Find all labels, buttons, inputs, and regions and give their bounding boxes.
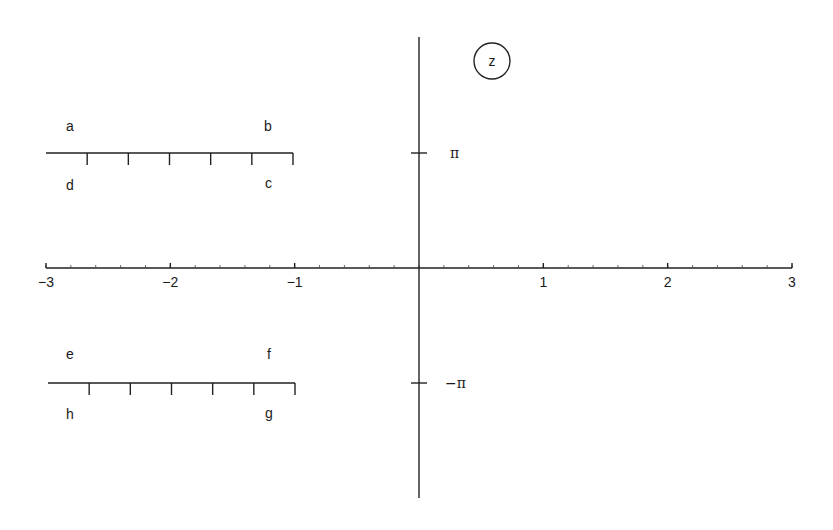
corner-label-d: d (66, 177, 74, 193)
corner-label-e: e (66, 346, 74, 362)
corner-label-c: c (265, 175, 272, 191)
corner-label-b: b (264, 118, 272, 134)
x-tick-label: 2 (664, 274, 672, 290)
complex-plane-diagram: −3−2−1123 π −π z a b d c e f h g (0, 0, 833, 530)
neg-pi-label: −π (445, 375, 466, 391)
real-axis-major-ticks: −3−2−1123 (38, 263, 796, 290)
corner-label-a: a (66, 118, 74, 134)
pi-label: π (450, 145, 459, 161)
diagram-svg: −3−2−1123 π −π z a b d c e f h g (0, 0, 833, 530)
x-tick-label: 1 (539, 274, 547, 290)
corner-label-f: f (267, 346, 271, 362)
x-tick-label: −3 (38, 274, 54, 290)
lower-segment: e f h g (48, 346, 295, 422)
corner-label-h: h (66, 406, 74, 422)
x-tick-label: −2 (162, 274, 178, 290)
corner-label-g: g (265, 405, 273, 421)
x-tick-label: 3 (788, 274, 796, 290)
upper-segment: a b d c (46, 118, 293, 193)
x-tick-label: −1 (287, 274, 303, 290)
plane-label: z (489, 53, 496, 69)
